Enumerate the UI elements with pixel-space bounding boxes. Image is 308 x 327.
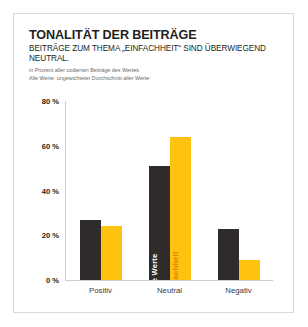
bar-group: Alle WerteEinfachheitNeutral [135, 98, 204, 280]
bar-groups: PositivAlle WerteEinfachheitNeutralNegat… [66, 98, 273, 280]
bar [239, 260, 260, 280]
chart-note-secondary: Alle Werte: ungewichteter Durchschnitt a… [29, 75, 281, 82]
chart-note-primary: in Prozent aller codierten Beiträge des … [29, 67, 281, 74]
bar-inline-label: Einfachheit [171, 251, 180, 280]
y-axis-tick-label: 80 % [29, 97, 59, 106]
x-axis-category-label: Negativ [204, 286, 273, 295]
bar [218, 229, 239, 280]
x-axis-line [65, 280, 273, 281]
bar: Einfachheit [170, 137, 191, 280]
bar-group: Negativ [204, 98, 273, 280]
bar [80, 220, 101, 280]
y-axis-tick-label: 20 % [29, 231, 59, 240]
y-axis-tick-label: 0 % [29, 276, 59, 285]
bar-inline-label: Alle Werte [150, 254, 159, 281]
bar-group: Positiv [66, 98, 135, 280]
x-axis-category-label: Neutral [135, 286, 204, 295]
page-title: TONALITÄT DER BEITRÄGE [29, 28, 281, 42]
bar [101, 226, 122, 280]
chart-card: TONALITÄT DER BEITRÄGE BEITRÄGE ZUM THEM… [13, 13, 294, 313]
chart-headline: BEITRÄGE ZUM THEMA „EINFACHHEIT“ SIND ÜB… [29, 44, 281, 63]
y-axis-tick-label: 40 % [29, 186, 59, 195]
bar: Alle Werte [149, 166, 170, 280]
chart-header: TONALITÄT DER BEITRÄGE BEITRÄGE ZUM THEM… [29, 28, 281, 82]
chart-plot-area: 0 %20 %40 %60 %80 % PositivAlle WerteEin… [29, 98, 281, 298]
x-axis-category-label: Positiv [66, 286, 135, 295]
y-axis-tick-label: 60 % [29, 141, 59, 150]
